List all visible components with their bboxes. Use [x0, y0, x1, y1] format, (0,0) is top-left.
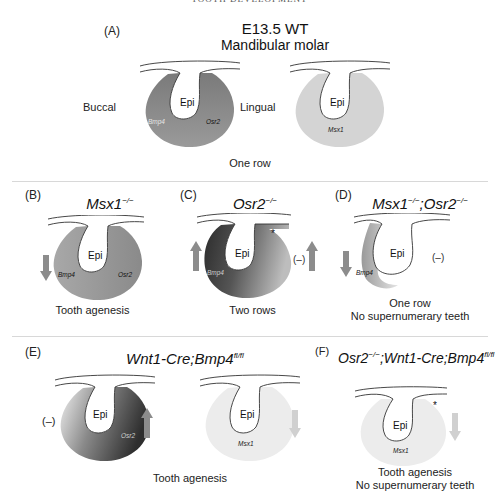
svg-text:Msx1: Msx1	[393, 447, 409, 454]
buccal-label: Buccal	[83, 101, 116, 113]
svg-text:Msx1: Msx1	[328, 126, 344, 133]
panel-f-caption-line2: No supernumerary teeth	[345, 479, 485, 492]
svg-text:(–): (–)	[293, 254, 305, 265]
svg-text:Epi: Epi	[390, 248, 404, 259]
panel-d-tooth: Epi Bmp4 (–)	[340, 213, 455, 303]
panel-e-left-marker: (–)	[42, 415, 55, 427]
svg-text:Epi: Epi	[88, 250, 102, 261]
svg-text:Epi: Epi	[235, 248, 249, 259]
svg-text:Bmp4: Bmp4	[356, 269, 373, 277]
svg-text:Osr2: Osr2	[121, 432, 135, 439]
panel-d-title: Msx1−/−;Osr2−/−	[350, 195, 490, 212]
panel-c-title: Osr2−/−	[205, 195, 305, 212]
panel-c-label: (C)	[180, 188, 197, 202]
svg-text:Osr2: Osr2	[118, 271, 132, 278]
panel-e-up-arrow-icon	[140, 408, 154, 438]
svg-text:*: *	[271, 228, 275, 239]
svg-text:Epi: Epi	[93, 409, 107, 420]
separator-2	[12, 336, 488, 337]
panel-e-caption: Tooth agenesis	[120, 472, 260, 485]
panel-e-down-arrow-icon	[289, 410, 301, 440]
panel-b-label: (B)	[25, 188, 41, 202]
panel-b-caption: Tooth agenesis	[40, 304, 145, 317]
gene-bmp4: Bmp4	[148, 118, 165, 126]
panel-f-caption-line1: Tooth agenesis	[345, 466, 485, 479]
panel-a-title-line2: Mandibular molar	[180, 37, 370, 53]
svg-text:Msx1: Msx1	[238, 440, 254, 447]
svg-text:Epi: Epi	[240, 409, 254, 420]
lingual-label: Lingual	[240, 101, 275, 113]
gene-osr2: Osr2	[206, 118, 220, 125]
panel-f-label: (F)	[315, 345, 329, 357]
svg-text:*: *	[433, 400, 437, 411]
panel-e-title: Wnt1-Cre;Bmp4fl/fl	[120, 350, 250, 367]
svg-text:(–): (–)	[432, 252, 444, 263]
panel-e-label: (E)	[25, 345, 41, 359]
panel-f-title: Osr2−/−;Wnt1-Cre;Bmp4fl/fl	[338, 350, 498, 366]
panel-a-tooth-msx1: Epi Msx1	[290, 58, 390, 150]
panel-b-title: Msx1−/−	[60, 195, 160, 212]
running-head: TOOTH DEVELOPMENT	[0, 0, 499, 4]
panel-a-label: (A)	[104, 24, 120, 38]
panel-c-caption: Two rows	[200, 304, 305, 317]
svg-text:Epi: Epi	[393, 420, 407, 431]
panel-e-right-tooth: Epi Msx1	[200, 372, 300, 464]
panel-a-caption: One row	[200, 157, 300, 170]
panel-a-title-line1: E13.5 WT	[180, 20, 370, 37]
svg-text:Epi: Epi	[330, 97, 344, 108]
panel-d-caption-line1: One row	[340, 297, 480, 310]
panel-b-tooth: Epi Bmp4 Osr2	[40, 215, 145, 305]
svg-text:Bmp4: Bmp4	[207, 269, 224, 277]
panel-c-tooth: * Epi Bmp4 (–)	[185, 213, 320, 305]
panel-d-caption-line2: No supernumerary teeth	[340, 310, 480, 323]
panel-a-tooth-bmp4-osr2: Epi Bmp4 Osr2	[140, 58, 240, 150]
svg-text:Bmp4: Bmp4	[58, 271, 75, 279]
separator-1	[12, 181, 488, 182]
panel-f-tooth: * Epi Msx1	[355, 385, 475, 470]
epi-label: Epi	[180, 97, 194, 108]
